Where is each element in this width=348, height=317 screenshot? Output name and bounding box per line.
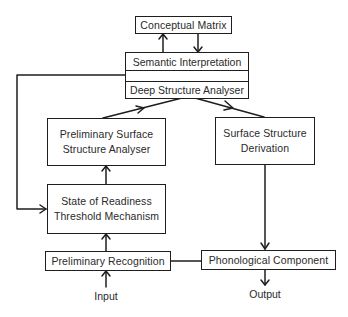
node-label-line2: Structure Analyser [63, 142, 151, 157]
node-label: Deep Structure Analyser [130, 84, 244, 96]
node-label-line1: State of Readiness [61, 194, 152, 209]
node-label: Preliminary Recognition [51, 254, 164, 269]
node-preliminary-surface-structure-analyser: Preliminary Surface Structure Analyser [47, 118, 166, 166]
node-state-of-readiness-threshold-mechanism: State of Readiness Threshold Mechanism [47, 184, 166, 234]
node-semantic-deep-stack: Semantic Interpretation Deep Structure A… [125, 52, 249, 99]
node-surface-structure-derivation: Surface Structure Derivation [215, 117, 315, 165]
node-label: Conceptual Matrix [140, 18, 226, 33]
node-conceptual-matrix: Conceptual Matrix [135, 16, 232, 34]
node-label-line2: Threshold Mechanism [54, 209, 159, 224]
node-label-line1: Surface Structure [223, 126, 306, 141]
node-phonological-component: Phonological Component [201, 250, 336, 270]
edge-deep-to-surface-derivation [195, 98, 264, 117]
terminal-output: Output [249, 288, 281, 300]
node-semantic-interpretation: Semantic Interpretation [126, 53, 248, 70]
node-label-line1: Preliminary Surface [60, 127, 154, 142]
node-label: Semantic Interpretation [133, 56, 242, 68]
terminal-input: Input [94, 290, 117, 302]
node-deep-structure-analyser: Deep Structure Analyser [126, 81, 248, 97]
arrowhead-diagonal-icon [224, 101, 233, 110]
language-processing-diagram: Conceptual Matrix Semantic Interpretatio… [0, 0, 348, 317]
node-label-line2: Derivation [241, 141, 289, 156]
node-preliminary-recognition: Preliminary Recognition [45, 251, 171, 271]
node-label: Phonological Component [209, 253, 329, 268]
node-semantic-middle-band [126, 70, 248, 81]
